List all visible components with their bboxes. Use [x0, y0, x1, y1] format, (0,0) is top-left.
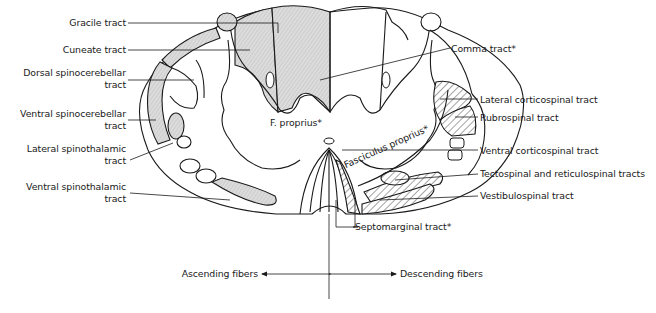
label-septomarginal-tract: Septomarginal tract*	[355, 221, 451, 232]
label-lateral-corticospinal-tract: Lateral corticospinal tract	[480, 94, 598, 105]
legend-ascending-fibers: Ascending fibers	[150, 268, 258, 279]
label-rubrospinal-tract: Rubrospinal tract	[480, 112, 559, 123]
label-ventral-spinocerebellar-tract-line2: tract	[10, 120, 126, 131]
label-comma-tract: Comma tract*	[451, 43, 516, 54]
label-cuneate-tract: Cuneate tract	[40, 44, 126, 55]
label-tectospinal-reticulospinal-tracts: Tectospinal and reticulospinal tracts	[480, 168, 645, 179]
label-dorsal-spinocerebellar-tract-line2: tract	[10, 79, 126, 90]
label-ventral-spinocerebellar-tract: Ventral spinocerebellar	[10, 108, 126, 119]
label-ventral-corticospinal-tract: Ventral corticospinal tract	[480, 145, 598, 156]
label-ventral-spinothalamic-tract-line2: tract	[10, 193, 126, 204]
legend-descending-fibers: Descending fibers	[400, 268, 483, 279]
label-gracile-tract: Gracile tract	[40, 17, 126, 28]
label-f-proprius: F. proprius*	[270, 117, 322, 128]
label-lateral-spinothalamic-tract: Lateral spinothalamic	[10, 143, 126, 154]
label-lateral-spinothalamic-tract-line2: tract	[10, 155, 126, 166]
label-dorsal-spinocerebellar-tract: Dorsal spinocerebellar	[10, 67, 126, 78]
label-vestibulospinal-tract: Vestibulospinal tract	[480, 190, 574, 201]
label-ventral-spinothalamic-tract: Ventral spinothalamic	[10, 181, 126, 192]
